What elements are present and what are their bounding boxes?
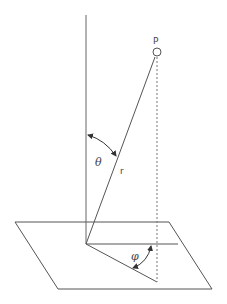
theta-arc [88, 135, 116, 156]
point-p-marker [153, 48, 161, 56]
point-p-label: P [153, 36, 159, 46]
theta-label: θ [95, 156, 102, 169]
phi-label: φ [131, 250, 139, 263]
projection-line [86, 244, 157, 282]
radius-line [86, 57, 155, 244]
spherical-coordinates-diagram: P θ r φ [0, 0, 227, 304]
radius-label: r [120, 166, 124, 176]
xy-plane [15, 222, 212, 289]
